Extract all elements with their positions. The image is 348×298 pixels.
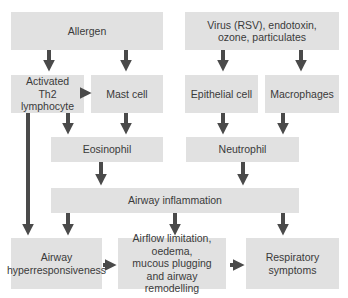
arrows-layer: [0, 0, 348, 298]
